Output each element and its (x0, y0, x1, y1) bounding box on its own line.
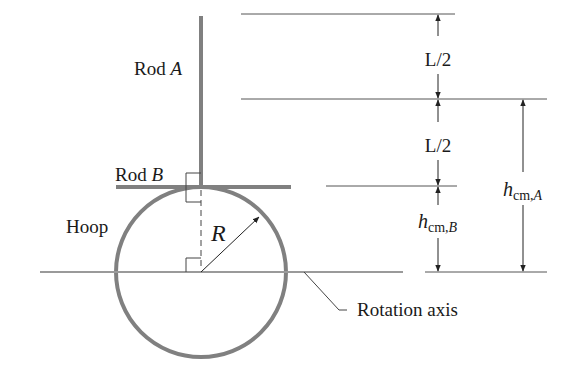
rod-b-label: Rod B (115, 164, 163, 185)
radius-label: R (210, 220, 226, 246)
radius-arrow (201, 217, 259, 272)
rod-a-label: Rod A (134, 58, 182, 79)
rotation-axis-leader (304, 272, 347, 310)
half-length-bottom-label: L/2 (425, 135, 451, 156)
hoop-label: Hoop (66, 216, 108, 237)
right-angle-marker-top (186, 173, 201, 187)
diagram-canvas: Rod A Rod B Hoop R Rotation axis L/2 L/2… (0, 0, 587, 380)
right-angle-marker-bottom (186, 258, 201, 272)
rotation-axis-label: Rotation axis (357, 299, 458, 320)
h-cm-a-label: hcm,A (503, 178, 543, 203)
h-cm-b-label: hcm,B (418, 210, 458, 235)
half-length-top-label: L/2 (425, 49, 451, 70)
